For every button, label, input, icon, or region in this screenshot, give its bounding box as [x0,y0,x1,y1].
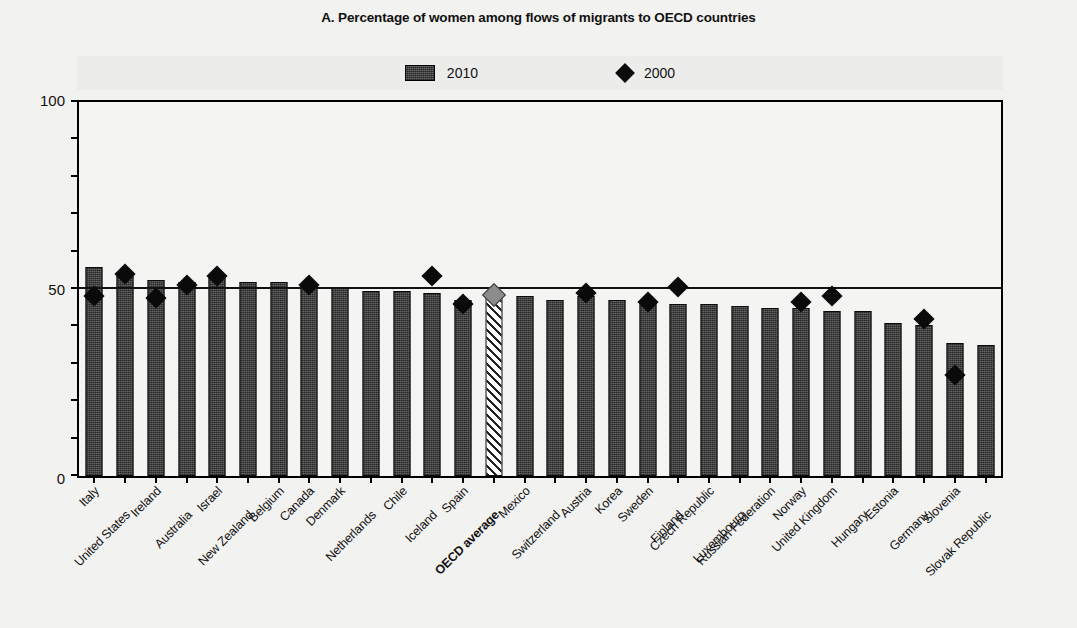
bar-group[interactable] [970,102,1001,476]
bar-group[interactable] [571,102,602,476]
marker-2000[interactable] [422,265,443,286]
bar-2010[interactable] [701,304,718,476]
reference-line-50 [79,287,1001,289]
bar-2010[interactable] [178,282,195,476]
y-axis-tick [71,437,79,439]
bar-2010[interactable] [209,278,226,476]
bar-group[interactable] [325,102,356,476]
x-axis-label: Israel [195,484,226,515]
bar-2010[interactable] [793,308,810,476]
bar-group[interactable] [202,102,233,476]
bar-group[interactable] [386,102,417,476]
bar-2010[interactable] [731,306,748,476]
bar-2010[interactable] [270,282,287,476]
x-axis-label: Chile [380,484,409,513]
bar-group[interactable] [171,102,202,476]
marker-2000[interactable] [821,286,842,307]
y-axis-tick [71,175,79,177]
plot-inner [79,102,1001,476]
bar-group[interactable] [448,102,479,476]
bar-group[interactable] [878,102,909,476]
x-label-slot: Chile [384,478,415,618]
bar-group[interactable] [940,102,971,476]
bar-group[interactable] [263,102,294,476]
bar-2010[interactable] [977,345,994,476]
y-axis-tick [71,474,79,476]
bar-group[interactable] [817,102,848,476]
bar-2010[interactable] [424,293,441,476]
x-label-slot: Austria [569,478,600,618]
bar-group[interactable] [540,102,571,476]
bar-group[interactable] [663,102,694,476]
x-label-slot: Switzerland [538,478,569,618]
bar-2010[interactable] [916,325,933,476]
bar-2010[interactable] [240,282,257,476]
bar-2010[interactable] [362,291,379,476]
x-axis-label: Italy [77,484,102,509]
bar-2010[interactable] [578,296,595,476]
bar-group[interactable] [479,102,510,476]
bar-group[interactable] [724,102,755,476]
y-axis-tick [71,100,79,102]
bar-2010[interactable] [117,276,134,476]
x-label-slot: OECD average [477,478,508,618]
bar-2010[interactable] [762,308,779,476]
y-axis-tick [71,250,79,252]
x-label-slot: New Zealand [231,478,262,618]
bar-2010[interactable] [854,311,871,476]
bar-group[interactable] [755,102,786,476]
bar-2010[interactable] [516,296,533,476]
bar-2010[interactable] [455,300,472,476]
x-label-slot: Canada [292,478,323,618]
bar-2010[interactable] [547,300,564,476]
y-axis-tick [71,137,79,139]
bar-group[interactable] [694,102,725,476]
x-label-slot: Slovak Republic [968,478,999,618]
bar-group[interactable] [140,102,171,476]
x-label-slot: Germany [907,478,938,618]
bar-2010[interactable] [670,304,687,476]
bar-group[interactable] [632,102,663,476]
bar-2010[interactable] [639,302,656,476]
bar-group[interactable] [79,102,110,476]
chart-title: A. Percentage of women among flows of mi… [0,10,1077,25]
bar-group[interactable] [417,102,448,476]
bar-group[interactable] [110,102,141,476]
bar-2010[interactable] [485,295,502,476]
x-label-slot: Finland [661,478,692,618]
y-axis-tick [71,324,79,326]
x-label-slot: Australia [169,478,200,618]
bar-group[interactable] [356,102,387,476]
bar-2010[interactable] [393,291,410,476]
bar-group[interactable] [847,102,878,476]
marker-2000[interactable] [668,277,689,298]
bar-2010[interactable] [147,280,164,476]
y-axis-tick [71,212,79,214]
x-label-slot: Korea [599,478,630,618]
bar-2010[interactable] [608,300,625,476]
x-label-slot: United States [108,478,139,618]
bar-group[interactable] [786,102,817,476]
bar-2010[interactable] [332,287,349,476]
x-label-slot: Norway [784,478,815,618]
x-label-slot: Belgium [261,478,292,618]
y-tick-label-50: 50 [0,281,65,298]
bar-group[interactable] [233,102,264,476]
x-label-slot: Luxembourg [722,478,753,618]
chart-legend: 2010 2000 [77,56,1003,90]
y-axis-tick [71,362,79,364]
bar-2010[interactable] [301,285,318,476]
bar-2010[interactable] [823,311,840,476]
y-tick-label-0: 0 [0,470,65,487]
bar-group[interactable] [601,102,632,476]
x-label-slot: Netherlands [354,478,385,618]
y-axis-tick [71,287,79,289]
bar-group[interactable] [509,102,540,476]
bar-2010[interactable] [946,343,963,476]
bar-group[interactable] [909,102,940,476]
plot-area [77,100,1003,478]
bar-2010[interactable] [885,323,902,476]
bar-group[interactable] [294,102,325,476]
legend-item-2000: 2000 [618,65,675,81]
legend-label-2000: 2000 [644,65,675,81]
